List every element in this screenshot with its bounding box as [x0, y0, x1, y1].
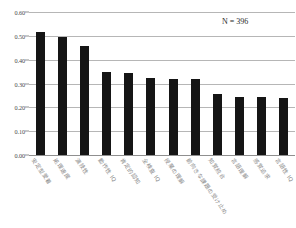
bar — [279, 98, 288, 155]
x-axis-category-label: 処理速度 — [52, 157, 73, 182]
axis-baseline — [29, 155, 295, 156]
y-axis-tick-label: 0.00 — [15, 152, 25, 159]
bar — [169, 79, 178, 155]
bar — [58, 37, 67, 155]
bar — [36, 32, 45, 155]
y-axis-tick-label: 0.20 — [15, 104, 25, 111]
x-axis-category-label: 知覚統合 — [207, 157, 228, 182]
y-axis-tick-label: 0.50 — [15, 32, 25, 39]
y-axis-tick-label: 0.60 — [15, 9, 25, 16]
bar — [191, 79, 200, 155]
x-axis-category-label: 授業の理解 — [163, 157, 187, 187]
x-axis-category-label: 前向きな課題の受け止め — [185, 157, 230, 217]
x-axis-category-label: 安定型愛着 — [30, 157, 54, 187]
x-axis-labels: 安定型愛着処理速度演技性動作性 IQ肯定的認知全検査 IQ授業の理解前向きな課題… — [29, 157, 295, 227]
bar — [257, 97, 266, 155]
plot-area: 0.000.100.200.300.400.500.60 — [29, 12, 295, 155]
y-axis-tick-label: 0.10 — [15, 128, 25, 135]
y-axis-tick-label: 0.40 — [15, 56, 25, 63]
cropped-title-text — [62, 0, 182, 4]
bar — [235, 97, 244, 155]
y-axis-tick-label: 0.30 — [15, 80, 25, 87]
bar — [80, 46, 89, 155]
bar — [102, 72, 111, 155]
x-axis-category-label: 肯定的認知 — [118, 157, 142, 187]
x-axis-category-label: 感覚追求 — [251, 157, 272, 182]
bar — [146, 78, 155, 155]
bar — [213, 94, 222, 155]
x-axis-category-label: 演技性 — [74, 157, 91, 177]
x-axis-category-label: 全検査 IQ — [140, 157, 162, 183]
x-axis-category-label: 言語理解 — [229, 157, 250, 182]
bar-series — [29, 12, 295, 155]
x-axis-category-label: 言語性 IQ — [273, 157, 295, 183]
bar — [124, 73, 133, 155]
bar-chart: N = 396 0.000.100.200.300.400.500.60 安定型… — [0, 0, 296, 228]
x-axis-category-label: 動作性 IQ — [96, 157, 118, 183]
